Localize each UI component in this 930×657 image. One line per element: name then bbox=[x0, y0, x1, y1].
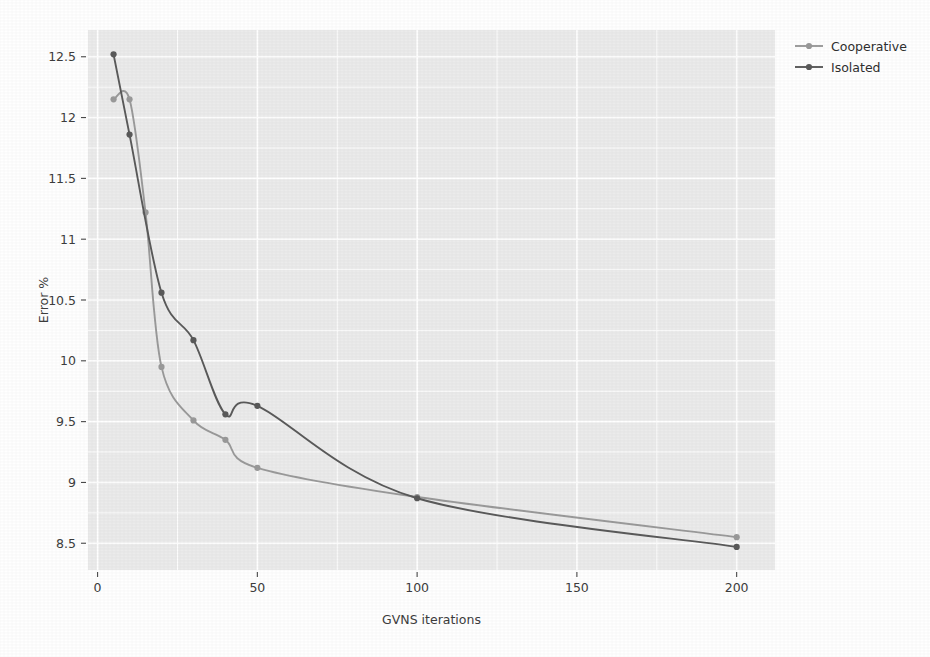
y-tick-label: 8.5 bbox=[56, 536, 76, 551]
y-tick-label: 9.5 bbox=[56, 414, 76, 429]
x-tick-label: 50 bbox=[249, 580, 265, 595]
y-tick-label: 10 bbox=[60, 353, 76, 368]
y-tick-label: 12.5 bbox=[48, 49, 76, 64]
chart-legend: CooperativeIsolated bbox=[795, 39, 907, 75]
data-point-marker bbox=[126, 131, 132, 137]
data-point-marker bbox=[158, 364, 164, 370]
y-tick-label: 12 bbox=[60, 110, 76, 125]
legend-marker-icon bbox=[806, 64, 812, 70]
y-tick-label: 9 bbox=[68, 475, 76, 490]
x-tick-label: 200 bbox=[725, 580, 749, 595]
x-axis-title: GVNS iterations bbox=[382, 612, 481, 627]
x-tick-label: 0 bbox=[94, 580, 102, 595]
data-point-marker bbox=[414, 495, 420, 501]
data-point-marker bbox=[190, 337, 196, 343]
data-point-marker bbox=[254, 465, 260, 471]
legend-item-isolated[interactable]: Isolated bbox=[795, 60, 881, 75]
plot-svg: 050100150200 8.599.51010.51111.51212.5 G… bbox=[0, 0, 930, 657]
legend-label: Cooperative bbox=[831, 39, 907, 54]
y-tick-label: 10.5 bbox=[48, 293, 76, 308]
data-point-marker bbox=[254, 403, 260, 409]
y-axis-ticks: 8.599.51010.51111.51212.5 bbox=[48, 49, 86, 550]
data-point-marker bbox=[158, 290, 164, 296]
chart-page: 050100150200 8.599.51010.51111.51212.5 G… bbox=[0, 0, 930, 657]
data-point-marker bbox=[734, 544, 740, 550]
y-tick-label: 11.5 bbox=[48, 171, 76, 186]
data-point-marker bbox=[110, 51, 116, 57]
data-point-marker bbox=[222, 411, 228, 417]
legend-label: Isolated bbox=[831, 60, 881, 75]
x-tick-label: 100 bbox=[405, 580, 429, 595]
x-axis-ticks: 050100150200 bbox=[94, 572, 749, 595]
data-point-marker bbox=[734, 534, 740, 540]
x-tick-label: 150 bbox=[565, 580, 589, 595]
y-tick-label: 11 bbox=[60, 232, 76, 247]
legend-item-cooperative[interactable]: Cooperative bbox=[795, 39, 907, 54]
data-point-marker bbox=[190, 417, 196, 423]
data-point-marker bbox=[126, 96, 132, 102]
y-axis-title: Error % bbox=[36, 277, 51, 323]
line-chart-figure: 050100150200 8.599.51010.51111.51212.5 G… bbox=[0, 0, 930, 657]
data-point-marker bbox=[222, 437, 228, 443]
legend-marker-icon bbox=[806, 43, 812, 49]
data-point-marker bbox=[110, 96, 116, 102]
